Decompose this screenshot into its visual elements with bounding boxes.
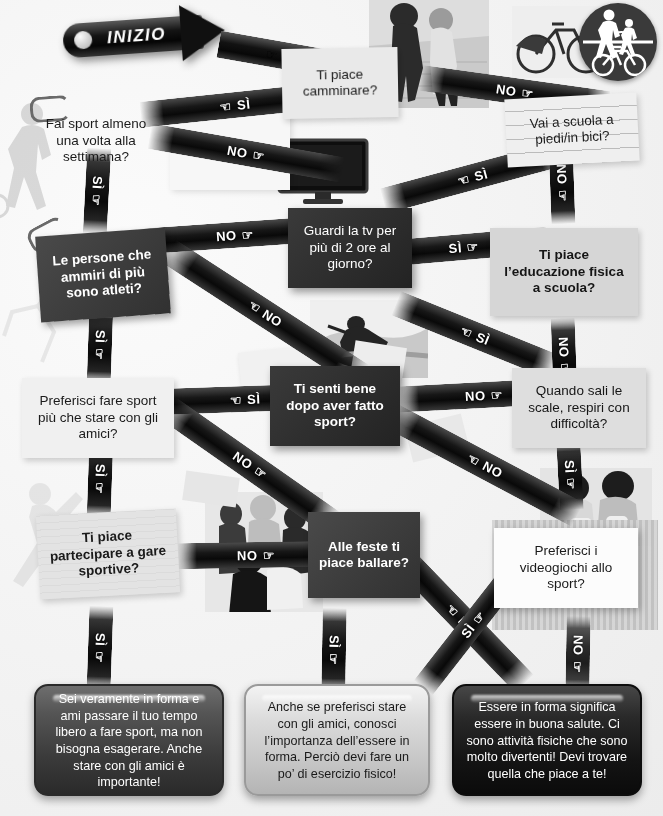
question-text: Le persone che ammiri di più sono atleti… — [46, 247, 159, 304]
pointing-hand-icon: ☞ — [93, 651, 106, 664]
pointing-hand-icon: ☞ — [252, 464, 270, 482]
connector-gare-si: SÌ☞ — [87, 606, 114, 691]
pointing-hand-left-icon: ☜ — [219, 99, 233, 113]
connector-label: SÌ — [562, 459, 578, 473]
connector-label: NO — [554, 164, 570, 185]
result-box-3[interactable]: Essere in forma significa essere in buon… — [452, 684, 642, 796]
pointing-hand-icon: ☞ — [251, 148, 266, 163]
connector-label: NO — [495, 81, 517, 99]
question-text: Fai sport almeno una volta alla settiman… — [38, 116, 154, 165]
question-preferisci-sport[interactable]: Preferisci fare sport più che stare con … — [22, 378, 174, 458]
pointing-hand-icon: ☞ — [564, 478, 578, 491]
pointing-hand-icon: ☞ — [571, 660, 584, 673]
result-box-1[interactable]: Sei veramente in forma e ami passare il … — [34, 684, 224, 796]
paper-scrap — [182, 470, 240, 507]
connector-label: NO — [570, 635, 585, 656]
connector-label: NO — [260, 306, 285, 330]
question-text: Preferisci i videogiochi allo sport? — [504, 543, 628, 592]
connector-label: NO — [480, 458, 505, 481]
question-text: Ti piace camminare? — [292, 66, 389, 101]
connector-label: NO — [556, 337, 572, 358]
connector-label: NO — [465, 387, 486, 403]
connector-label: NO — [216, 227, 237, 243]
question-senti-bene[interactable]: Ti senti bene dopo aver fatto sport? — [270, 366, 400, 446]
question-scuola-bici[interactable]: Vai a scuola a piedi/in bici? — [504, 93, 639, 168]
connector-label: SÌ — [473, 166, 490, 184]
connector-label: SÌ — [93, 632, 108, 646]
question-sport-settimana[interactable]: Fai sport almeno una volta alla settiman… — [28, 106, 164, 176]
question-text: Preferisci fare sport più che stare con … — [32, 393, 164, 442]
question-text: Alle feste ti piace ballare? — [318, 539, 410, 572]
result-text: Essere in forma significa essere in buon… — [466, 699, 628, 782]
connector-label: SÌ — [93, 329, 108, 343]
pointing-hand-left-icon: ☜ — [458, 323, 474, 340]
sign-divider — [583, 41, 653, 44]
question-gare[interactable]: Ti piace partecipare a gare sportive? — [36, 508, 180, 599]
connector-label: SÌ — [474, 329, 492, 348]
pointing-hand-left-icon: ☜ — [456, 171, 471, 187]
connector-label: SÌ — [93, 463, 108, 477]
connector-videogiochi-no: NO☞ — [565, 616, 590, 692]
result-text: Sei veramente in forma e ami passare il … — [48, 691, 210, 791]
question-ballare[interactable]: Alle feste ti piace ballare? — [308, 512, 420, 598]
result-text: Anche se preferisci stare con gli amici,… — [258, 699, 416, 782]
question-text: Quando sali le scale, respiri con diffic… — [522, 383, 636, 432]
pointing-hand-left-icon: ☜ — [246, 298, 264, 316]
question-atleti[interactable]: Le persone che ammiri di più sono atleti… — [35, 228, 171, 323]
connector-label: NO — [237, 547, 258, 562]
connector-label: SÌ — [236, 96, 251, 112]
pointing-hand-icon: ☞ — [490, 388, 503, 402]
connector-ballare-si: SÌ☞ — [321, 608, 346, 692]
pointing-hand-left-icon: ☜ — [229, 393, 242, 406]
connector-label: SÌ — [247, 391, 261, 406]
connector-label: SÌ — [458, 621, 478, 641]
question-scale[interactable]: Quando sali le scale, respiri con diffic… — [512, 368, 646, 448]
result-box-2[interactable]: Anche se preferisci stare con gli amici,… — [244, 684, 430, 796]
connector-label: NO — [230, 448, 255, 472]
pointing-hand-icon: ☞ — [262, 548, 275, 561]
pointing-hand-icon: ☞ — [93, 482, 106, 495]
pointing-hand-left-icon: ☜ — [465, 451, 482, 468]
pointing-hand-icon: ☞ — [265, 46, 279, 63]
question-educazione[interactable]: Ti piace l’educazione fisica a scuola? — [490, 228, 638, 316]
pointing-hand-icon: ☞ — [466, 239, 480, 253]
question-text: Ti piace l’educazione fisica a scuola? — [500, 247, 628, 296]
connector-label: SÌ — [448, 240, 463, 256]
flowchart-poster: INIZIO ☞ ☜SÌ NO☞ NO☞ SÌ☞ ☜SÌ NO☞ NO☞ SÌ☞… — [0, 0, 663, 816]
question-tv[interactable]: Guardi la tv per più di 2 ore al giorno? — [288, 208, 412, 288]
question-camminare[interactable]: Ti piace camminare? — [281, 47, 398, 119]
connector-label: SÌ — [327, 634, 342, 648]
pointing-hand-icon: ☞ — [327, 653, 340, 666]
pointing-hand-icon: ☞ — [90, 194, 104, 207]
start-label: INIZIO — [106, 24, 166, 48]
connector-label: SÌ — [90, 175, 106, 189]
pointing-hand-icon: ☞ — [241, 227, 254, 241]
pointing-hand-icon: ☞ — [93, 348, 106, 361]
connector-label: NO — [226, 142, 249, 160]
pedestrian-and-bicycle-sign-icon — [579, 3, 657, 81]
question-videogiochi[interactable]: Preferisci i videogiochi allo sport? — [494, 528, 638, 608]
pointing-hand-icon: ☞ — [556, 189, 569, 202]
pointing-hand-left-icon: ☜ — [444, 601, 462, 619]
pointing-hand-icon: ☞ — [470, 608, 488, 626]
question-text: Ti senti bene dopo aver fatto sport? — [280, 381, 390, 430]
question-text: Vai a scuola a piedi/in bici? — [515, 111, 629, 150]
question-text: Ti piace partecipare a gare sportive? — [47, 526, 169, 582]
question-text: Guardi la tv per più di 2 ore al giorno? — [298, 223, 402, 272]
